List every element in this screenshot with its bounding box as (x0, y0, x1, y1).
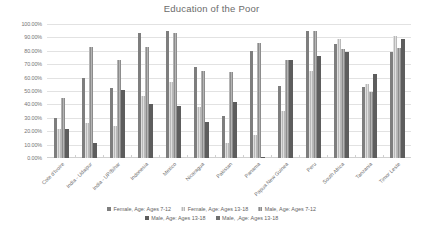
bar (169, 82, 172, 158)
x-axis-tick-label: Tanzania (354, 161, 373, 180)
y-axis-tick-label: 90.00% (24, 34, 42, 40)
bar (173, 33, 176, 158)
x-axis-tick-label: Indonesia (129, 161, 149, 181)
bar (341, 49, 344, 158)
bar (401, 39, 404, 158)
legend-item[interactable]: Male, Age: Ages 13-18 (145, 215, 206, 221)
y-axis-tick-label: 80.00% (24, 48, 42, 54)
chart-container: Education of the Poor 100.00%90.00%80.00… (0, 0, 423, 246)
bar (233, 102, 236, 158)
bar (197, 107, 200, 158)
bar (177, 106, 180, 158)
y-axis-tick-label: 30.00% (24, 115, 42, 121)
bar-group (131, 24, 159, 158)
y-axis-tick-label: 20.00% (24, 128, 42, 134)
bar (225, 143, 228, 158)
bar (145, 47, 148, 158)
bar (337, 39, 340, 158)
legend-item[interactable]: Female, Age: Ages 7-12 (107, 206, 171, 212)
bar (57, 129, 60, 158)
bar (257, 43, 260, 158)
bar (369, 92, 372, 158)
bar (317, 56, 320, 158)
bar (194, 67, 197, 158)
bar (285, 60, 288, 158)
legend-label: Female, Age: Ages 7-12 (114, 206, 172, 212)
bar (110, 88, 113, 158)
bar-group (187, 24, 215, 158)
bar-group (47, 24, 75, 158)
x-axis-group: India - UP/Bihar (103, 159, 131, 205)
legend-item[interactable]: Female, Age: Ages 13-18 (181, 206, 248, 212)
bar (85, 123, 88, 158)
y-axis-tick-label: 100.00% (21, 21, 42, 27)
bar (362, 87, 365, 158)
bar (166, 31, 169, 158)
legend-label: Male, Age: Ages 7-12 (265, 206, 316, 212)
bar (309, 71, 312, 158)
bar (278, 86, 281, 158)
bar (250, 51, 253, 158)
x-axis: Cote d'IvoireIndia - UdaipurIndia - UP/B… (47, 159, 411, 205)
bar (261, 157, 264, 158)
legend-label: Male, ,Age: Ages 13-18 (222, 215, 278, 221)
bar (222, 116, 225, 158)
bar-group (327, 24, 355, 158)
legend-swatch-icon (181, 207, 185, 211)
legend-swatch-icon (216, 216, 220, 220)
bar-group (383, 24, 411, 158)
x-axis-tick-label: Pakistan (215, 161, 233, 179)
legend-label: Female, Age: Ages 13-18 (188, 206, 249, 212)
legend-row: Male, Age: Ages 13-18Male, ,Age: Ages 13… (0, 215, 423, 221)
bar-group (271, 24, 299, 158)
bar (149, 104, 152, 158)
legend-swatch-icon (145, 216, 149, 220)
bar-group (243, 24, 271, 158)
bar (365, 84, 368, 158)
bar-group (159, 24, 187, 158)
y-axis-tick-label: 60.00% (24, 75, 42, 81)
bar (205, 122, 208, 158)
bar (373, 74, 376, 158)
bar-group (103, 24, 131, 158)
y-axis-tick-label: 70.00% (24, 61, 42, 67)
x-axis-group: Pakistan (215, 159, 243, 205)
x-axis-group: Indonesia (131, 159, 159, 205)
bar (334, 44, 337, 158)
y-axis-tick-label: 50.00% (24, 88, 42, 94)
bar (281, 111, 284, 158)
chart-legend: Female, Age: Ages 7-12Female, Age: Ages … (0, 206, 423, 224)
y-axis-tick-label: 10.00% (24, 142, 42, 148)
legend-label: Male, Age: Ages 13-18 (151, 215, 205, 221)
bar (141, 96, 144, 158)
bar (289, 60, 292, 158)
x-axis-group: Mexico (159, 159, 187, 205)
bar (121, 90, 124, 158)
bar (397, 48, 400, 158)
y-axis: 100.00%90.00%80.00%70.00%60.00%50.00%40.… (0, 24, 45, 158)
bar (61, 98, 64, 158)
legend-swatch-icon (107, 207, 111, 211)
bar (113, 126, 116, 158)
legend-item[interactable]: Male, Age: Ages 7-12 (258, 206, 316, 212)
bar (306, 31, 309, 158)
bar (390, 52, 393, 158)
legend-swatch-icon (258, 207, 262, 211)
y-axis-tick-label: 0.00% (27, 155, 42, 161)
bar (138, 33, 141, 158)
bar (313, 31, 316, 158)
x-axis-tick-label: Cote d'Ivoire (41, 161, 66, 186)
x-axis-tick-label: Nicaragua (184, 161, 205, 182)
legend-row: Female, Age: Ages 7-12Female, Age: Ages … (0, 206, 423, 212)
bar (54, 118, 57, 158)
bar (82, 78, 85, 158)
y-axis-tick-label: 40.00% (24, 101, 42, 107)
bar (253, 135, 256, 158)
x-axis-group: South Africa (327, 159, 355, 205)
bar-group (75, 24, 103, 158)
x-axis-tick-label: Panama (243, 161, 261, 179)
bar (117, 60, 120, 158)
chart-title: Education of the Poor (0, 3, 423, 14)
legend-item[interactable]: Male, ,Age: Ages 13-18 (216, 215, 279, 221)
x-axis-group: Papua New Guinea (271, 159, 299, 205)
